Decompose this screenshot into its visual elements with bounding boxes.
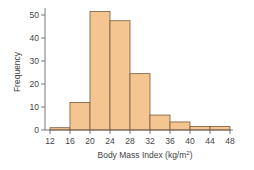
x-tick-label: 28 bbox=[125, 136, 135, 146]
histogram-bar bbox=[150, 115, 170, 130]
y-tick-label: 40 bbox=[30, 33, 40, 43]
x-axis-label: Body Mass Index (kg/m2) bbox=[98, 150, 193, 160]
x-tick-label: 12 bbox=[45, 136, 55, 146]
x-tick-label: 36 bbox=[165, 136, 175, 146]
x-tick-label: 20 bbox=[85, 136, 95, 146]
y-axis-label: Frequency bbox=[12, 51, 22, 92]
y-tick-label: 20 bbox=[30, 79, 40, 89]
x-tick-label: 16 bbox=[65, 136, 75, 146]
y-tick-label: 50 bbox=[30, 10, 40, 20]
histogram-bar bbox=[70, 102, 90, 130]
y-axis: 01020304050 bbox=[30, 8, 45, 135]
histogram-bar bbox=[130, 74, 150, 130]
x-tick-label: 48 bbox=[225, 136, 235, 146]
y-tick-label: 0 bbox=[34, 125, 39, 135]
histogram-bar bbox=[210, 127, 230, 130]
x-axis: 12162024283236404448 bbox=[45, 130, 235, 146]
histogram-bar bbox=[90, 12, 110, 130]
x-tick-label: 32 bbox=[145, 136, 155, 146]
bars bbox=[50, 12, 230, 130]
x-tick-label: 40 bbox=[185, 136, 195, 146]
histogram-bar bbox=[170, 122, 190, 130]
y-tick-label: 10 bbox=[30, 102, 40, 112]
x-tick-label: 24 bbox=[105, 136, 115, 146]
histogram-bar bbox=[110, 21, 130, 130]
y-tick-label: 30 bbox=[30, 56, 40, 66]
histogram-chart: 01020304050 12162024283236404448 Frequen… bbox=[0, 0, 254, 170]
x-tick-label: 44 bbox=[205, 136, 215, 146]
histogram-bar bbox=[190, 127, 210, 130]
